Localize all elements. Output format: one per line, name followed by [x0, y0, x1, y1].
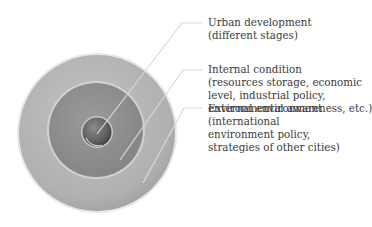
label-external-environment: External environment (international envi… — [208, 102, 340, 154]
label-urban-development: Urban development (different stages) — [208, 16, 312, 42]
label-detail: strategies of other cities) — [208, 141, 340, 154]
label-detail: (different stages) — [208, 29, 312, 42]
core-urban-development — [81, 116, 113, 148]
label-detail: (international — [208, 115, 340, 128]
label-detail: environment policy, — [208, 128, 340, 141]
label-title: Urban development — [208, 16, 312, 29]
label-detail: level, industrial policy, — [208, 89, 372, 102]
label-title: Internal condition — [208, 63, 372, 76]
label-title: External environment — [208, 102, 340, 115]
label-detail: (resources storage, economic — [208, 76, 372, 89]
